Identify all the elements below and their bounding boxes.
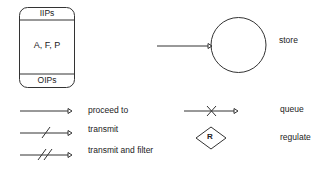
proceed-to-label: proceed to: [88, 105, 128, 115]
regulate-label: regulate: [280, 132, 311, 142]
queue-label: queue: [280, 104, 304, 114]
store-circle-icon: [211, 18, 266, 73]
transmit-label: transmit: [88, 124, 118, 134]
queue-arrow-icon: [184, 106, 238, 116]
oips-label: OIPs: [19, 75, 75, 85]
iips-label: IIPs: [19, 8, 75, 18]
transmit-arrow-icon: [20, 127, 72, 138]
store-label: store: [279, 35, 298, 45]
regulate-symbol: R: [207, 132, 213, 141]
transmit-and-filter-arrow-icon: [20, 149, 72, 160]
transmit-and-filter-label: transmit and filter: [88, 145, 153, 155]
afp-label: A, F, P: [19, 40, 75, 50]
proceed-to-arrow-icon: [20, 109, 72, 114]
